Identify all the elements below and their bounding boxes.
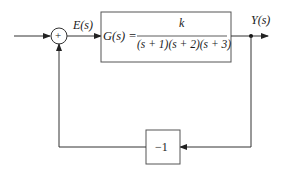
block-diagram: + E(s) G(s) = k (s + 1)(s + 2)(s + 3) Y(… xyxy=(0,0,281,175)
error-signal-label: E(s) xyxy=(73,19,93,31)
summing-sign: + xyxy=(55,30,61,41)
transfer-function-denominator: (s + 1)(s + 2)(s + 3) xyxy=(137,39,231,51)
transfer-function-fraction: k (s + 1)(s + 2)(s + 3) xyxy=(137,14,227,58)
feedback-gain-label: −1 xyxy=(155,141,168,153)
output-signal-label: Y(s) xyxy=(251,14,270,26)
transfer-function-lhs: G(s) = xyxy=(103,30,137,43)
transfer-function-numerator: k xyxy=(179,17,184,29)
